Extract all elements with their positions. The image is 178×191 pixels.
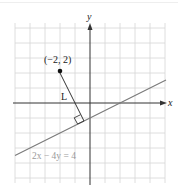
line-equation-label: 2x − 4y = 4	[32, 151, 76, 161]
right-angle-marker-icon	[74, 115, 84, 124]
x-axis-arrow-icon	[160, 101, 167, 106]
point-label: (−2, 2)	[44, 54, 71, 66]
point-neg2-2	[58, 69, 63, 74]
y-axis-arrow-icon	[88, 23, 93, 30]
segment-label-L: L	[61, 91, 67, 102]
coordinate-plane: (−2, 2) L 2x − 4y = 4 x y	[0, 0, 178, 191]
y-axis-label: y	[86, 11, 92, 22]
x-axis-label: x	[167, 97, 173, 108]
